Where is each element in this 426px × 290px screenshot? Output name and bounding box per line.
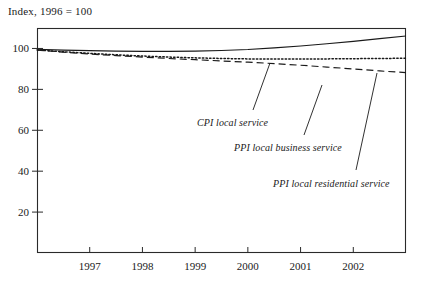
annotation-label-ppi-local-residential-service: PPI local residential service	[273, 178, 390, 189]
chart-figure: Index, 1996 = 100 20406080100 1997199819…	[0, 0, 426, 290]
annotation-label-ppi-local-business-service: PPI local business service	[234, 142, 342, 153]
series-annotations: CPI local servicePPI local business serv…	[0, 0, 426, 290]
annotation-label-cpi-local-service: CPI local service	[197, 117, 268, 128]
